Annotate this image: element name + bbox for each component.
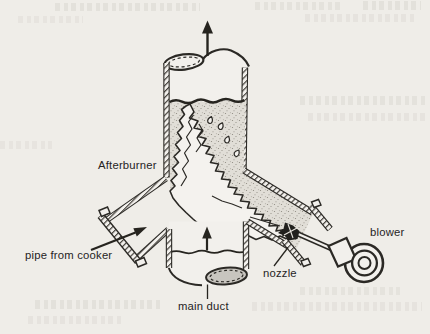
exhaust-arrow-icon [202, 21, 213, 57]
label-afterburner: Afterburner [98, 159, 157, 171]
afterburner-diagram: Afterburner pipe from cooker main duct n… [0, 0, 430, 334]
label-nozzle: nozzle [263, 267, 297, 279]
blower-unit [329, 238, 384, 282]
scanned-book-page: Afterburner pipe from cooker main duct n… [0, 0, 430, 334]
nozzle-leader-line [274, 248, 288, 267]
cooker-pipe-walls [105, 179, 169, 259]
cooker-pipe-flow-arrow-icon [91, 227, 147, 250]
label-main-duct: main duct [178, 300, 229, 312]
label-pipe-from-cooker: pipe from cooker [25, 249, 112, 261]
blower-hub [359, 257, 371, 269]
main-duct-lower-section [169, 222, 248, 300]
label-blower: blower [370, 226, 405, 238]
